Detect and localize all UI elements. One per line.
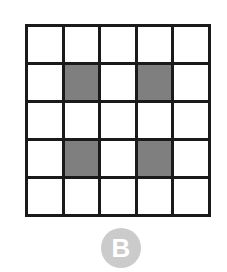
grid-cell bbox=[28, 141, 62, 176]
option-label-badge: B bbox=[101, 228, 141, 268]
grid-cell bbox=[65, 179, 99, 214]
pattern-grid bbox=[25, 24, 211, 217]
grid-cell bbox=[101, 179, 135, 214]
grid-cell bbox=[138, 179, 172, 214]
grid-cell bbox=[28, 179, 62, 214]
grid-cell bbox=[174, 103, 208, 138]
grid-cell bbox=[174, 141, 208, 176]
grid-cell bbox=[101, 27, 135, 62]
grid-cell bbox=[65, 27, 99, 62]
grid-cell bbox=[28, 65, 62, 100]
grid-cell-filled bbox=[138, 65, 172, 100]
grid-cell bbox=[28, 103, 62, 138]
grid-cell bbox=[174, 27, 208, 62]
grid-cell bbox=[138, 27, 172, 62]
grid-cell bbox=[174, 179, 208, 214]
grid-cell-filled bbox=[65, 141, 99, 176]
grid-cell bbox=[101, 65, 135, 100]
grid-cell bbox=[101, 141, 135, 176]
grid-cell bbox=[28, 27, 62, 62]
grid-cell-filled bbox=[65, 65, 99, 100]
grid-cell bbox=[101, 103, 135, 138]
grid-cell bbox=[138, 103, 172, 138]
grid-cell bbox=[65, 103, 99, 138]
grid-cell-filled bbox=[138, 141, 172, 176]
grid-cell bbox=[174, 65, 208, 100]
